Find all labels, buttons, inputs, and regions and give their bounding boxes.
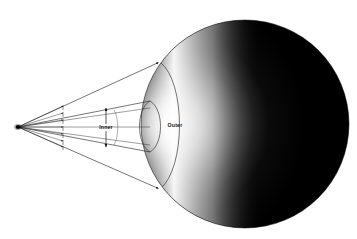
inner-label: Inner bbox=[99, 124, 113, 130]
figure-root: Inner Outer bbox=[0, 0, 357, 239]
inner-cone-group bbox=[18, 101, 150, 152]
source-point-group bbox=[14, 124, 21, 129]
inner-cone-ray-top bbox=[18, 101, 150, 127]
source-point bbox=[15, 125, 20, 129]
diagram-canvas: Inner Outer bbox=[0, 0, 357, 239]
inner-cone-ray-bottom bbox=[18, 127, 150, 152]
fan-ray-long-top bbox=[18, 108, 150, 127]
ray-fan-group bbox=[18, 106, 150, 147]
outer-label: Outer bbox=[168, 122, 183, 128]
inner-angle-arc bbox=[114, 110, 118, 145]
fan-ray-2 bbox=[18, 113, 63, 127]
sphere-crescent-highlight bbox=[141, 20, 291, 228]
outer-cone-group bbox=[18, 63, 159, 189]
